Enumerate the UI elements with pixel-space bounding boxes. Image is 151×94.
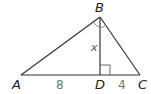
- segment-ab: [21, 17, 100, 75]
- right-angle-mark-icon: [100, 65, 110, 75]
- variable-label-bd: x: [90, 41, 98, 54]
- length-label-ad: 8: [56, 78, 64, 92]
- triangle-lines: [21, 17, 140, 75]
- vertex-label-a: A: [11, 77, 21, 92]
- vertex-label-d: D: [95, 77, 105, 92]
- vertex-label-b: B: [95, 0, 104, 15]
- segment-bc: [100, 17, 140, 75]
- length-label-dc: 4: [118, 78, 126, 92]
- triangle-diagram: B A D C 8 4 x: [0, 0, 151, 94]
- vertex-label-c: C: [138, 77, 148, 92]
